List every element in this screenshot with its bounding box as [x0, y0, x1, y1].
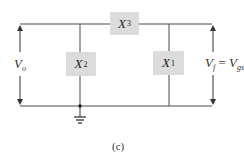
vf-symbol: V: [205, 55, 213, 70]
feedback-network-diagram: X3 X2 X1 Vo Vf = Vgs (c): [0, 0, 244, 160]
x3-subscript: 3: [127, 19, 131, 28]
vgs-subscript: gs: [237, 63, 244, 72]
ground-icon: [74, 106, 86, 123]
x1-subscript: 1: [171, 59, 175, 68]
figure-caption: (c): [112, 140, 124, 152]
vgs-symbol: V: [229, 55, 237, 70]
x2-subscript: 2: [83, 60, 87, 69]
vo-symbol: V: [14, 56, 22, 71]
vf-vgs-label: Vf = Vgs: [205, 56, 244, 75]
x3-symbol: X: [118, 16, 126, 32]
equals-sign: =: [218, 55, 225, 70]
vo-subscript: o: [22, 64, 26, 73]
x2-symbol: X: [75, 56, 83, 72]
vf-subscript: f: [213, 63, 215, 72]
component-x2: X2: [66, 52, 96, 76]
vo-label: Vo: [14, 57, 26, 76]
component-x1: X1: [153, 51, 184, 75]
x1-symbol: X: [162, 55, 170, 71]
component-x3: X3: [110, 12, 139, 35]
